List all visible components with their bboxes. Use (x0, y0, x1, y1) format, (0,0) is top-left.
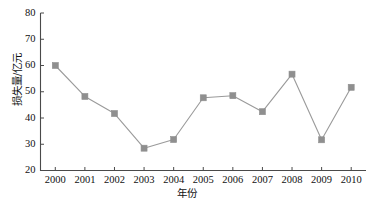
chart-axes (41, 13, 367, 171)
data-point-markers (52, 63, 354, 152)
x-axis-title: 年份 (0, 185, 374, 200)
x-tick-label: 2010 (331, 174, 371, 185)
y-axis-title: 损失量/亿元 (9, 30, 24, 130)
line-chart: 20304050607080 2000200120022003200420052… (0, 0, 374, 205)
y-tick-label: 80 (12, 8, 36, 18)
y-tick-label: 20 (12, 165, 36, 175)
y-tick-label: 30 (12, 139, 36, 149)
data-series-line (55, 66, 351, 149)
chart-tick-marks (41, 13, 352, 171)
